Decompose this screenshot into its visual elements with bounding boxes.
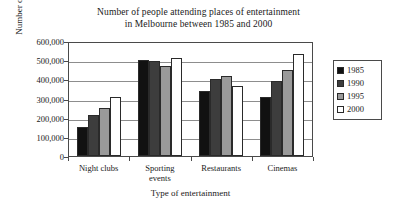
legend-label: 1985 <box>347 66 364 75</box>
chart-title-line-2: in Melbourne between 1985 and 2000 <box>0 18 397 30</box>
x-tick-mark <box>313 157 314 161</box>
y-tick-mark <box>64 61 68 62</box>
chart-title: Number of people attending places of ent… <box>0 6 397 30</box>
y-tick-mark <box>64 119 68 120</box>
bar <box>260 97 271 156</box>
x-category-label-line: events <box>129 173 190 183</box>
legend-label: 1990 <box>347 79 364 88</box>
legend-item[interactable]: 2000 <box>337 103 378 116</box>
bar-group <box>130 43 191 156</box>
y-tick-label: 400,000 <box>18 76 64 85</box>
x-category-label-line: Cinemas <box>252 163 313 173</box>
bar <box>171 58 182 156</box>
bar-chart: Number of people attending places of ent… <box>0 0 397 210</box>
bar-group <box>69 43 130 156</box>
bar <box>293 54 304 156</box>
bar <box>110 97 121 156</box>
bar-group <box>251 43 312 156</box>
x-axis-category-labels: Night clubsSportingeventsRestaurantsCine… <box>68 163 313 183</box>
bar <box>99 108 110 156</box>
chart-title-line-1: Number of people attending places of ent… <box>0 6 397 18</box>
bar <box>282 70 293 156</box>
y-tick-mark <box>64 138 68 139</box>
legend-label: 2000 <box>347 105 364 114</box>
legend-swatch-icon <box>337 93 344 100</box>
bar <box>149 61 160 156</box>
x-category-label: Sportingevents <box>129 163 190 183</box>
bar <box>160 66 171 156</box>
legend-item[interactable]: 1995 <box>337 90 378 103</box>
y-tick-label: 0 <box>18 153 64 162</box>
y-tick-label: 200,000 <box>18 115 64 124</box>
bar <box>271 81 282 156</box>
legend-swatch-icon <box>337 67 344 74</box>
y-tick-label: 600,000 <box>18 38 64 47</box>
y-tick-label: 300,000 <box>18 96 64 105</box>
bar-groups <box>69 43 312 156</box>
x-category-label-line: Night clubs <box>68 163 129 173</box>
plot-area <box>68 42 313 157</box>
bar <box>232 86 243 156</box>
x-tick-mark <box>252 157 253 161</box>
y-axis-tick-labels: 600,000500,000400,000300,000200,000100,0… <box>16 42 64 157</box>
x-tick-mark <box>191 157 192 161</box>
bar <box>210 79 221 156</box>
y-tick-label: 500,000 <box>18 57 64 66</box>
x-category-label: Restaurants <box>191 163 252 183</box>
x-axis-label: Type of entertainment <box>68 188 313 198</box>
bar <box>199 91 210 156</box>
bar <box>88 115 99 156</box>
bar <box>221 76 232 157</box>
legend-swatch-icon <box>337 80 344 87</box>
bar-group <box>191 43 252 156</box>
legend-item[interactable]: 1985 <box>337 64 378 77</box>
y-tick-mark <box>64 80 68 81</box>
y-tick-label: 100,000 <box>18 134 64 143</box>
legend-label: 1995 <box>347 92 364 101</box>
x-category-label: Cinemas <box>252 163 313 183</box>
y-tick-mark <box>64 157 68 158</box>
y-tick-mark <box>64 100 68 101</box>
legend-item[interactable]: 1990 <box>337 77 378 90</box>
x-tick-mark <box>68 157 69 161</box>
x-category-label-line: Sporting <box>129 163 190 173</box>
x-tick-mark <box>129 157 130 161</box>
x-category-label-line: Restaurants <box>191 163 252 173</box>
chart-legend: 1985199019952000 <box>333 60 382 120</box>
y-tick-mark <box>64 42 68 43</box>
x-category-label: Night clubs <box>68 163 129 183</box>
legend-swatch-icon <box>337 106 344 113</box>
bar <box>138 60 149 156</box>
bar <box>77 127 88 156</box>
